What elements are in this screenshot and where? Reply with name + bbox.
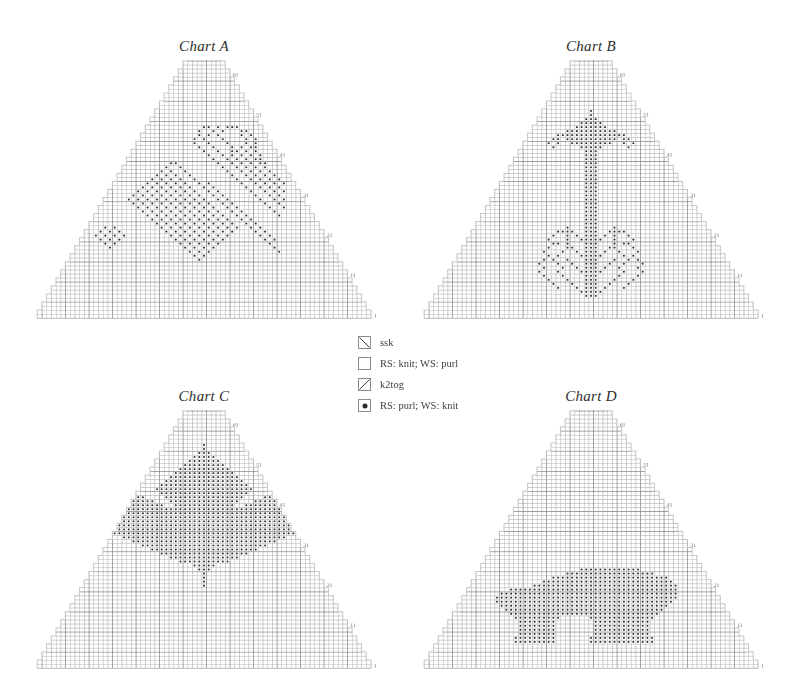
legend-item-knit: RS: knit; WS: purl bbox=[358, 353, 458, 374]
knit-icon bbox=[358, 357, 371, 370]
legend-item-purl: RS: purl; WS: knit bbox=[358, 395, 458, 416]
legend-label-purl: RS: purl; WS: knit bbox=[380, 400, 458, 411]
chart-b-block: Chart B bbox=[411, 38, 771, 330]
chart-d-title: Chart D bbox=[411, 388, 771, 405]
chart-b-title: Chart B bbox=[411, 38, 771, 55]
chart-c-block: Chart C bbox=[24, 388, 384, 680]
legend-label-ssk: ssk bbox=[380, 337, 393, 348]
k2tog-icon bbox=[358, 378, 371, 391]
legend-item-k2tog: k2tog bbox=[358, 374, 458, 395]
chart-a-block: Chart A bbox=[24, 38, 384, 330]
chart-c-title: Chart C bbox=[24, 388, 384, 405]
chart-d-grid bbox=[411, 410, 771, 680]
chart-a-grid bbox=[24, 60, 384, 330]
ssk-icon bbox=[358, 336, 371, 349]
chart-a-title: Chart A bbox=[24, 38, 384, 55]
chart-d-block: Chart D bbox=[411, 388, 771, 680]
legend-label-k2tog: k2tog bbox=[380, 379, 404, 390]
purl-icon bbox=[358, 399, 371, 412]
legend-label-knit: RS: knit; WS: purl bbox=[380, 358, 458, 369]
legend-item-ssk: ssk bbox=[358, 332, 458, 353]
chart-c-grid bbox=[24, 410, 384, 680]
chart-legend: ssk RS: knit; WS: purl k2tog RS: purl; W… bbox=[358, 332, 458, 416]
purl-dot bbox=[362, 403, 367, 408]
chart-b-grid bbox=[411, 60, 771, 330]
